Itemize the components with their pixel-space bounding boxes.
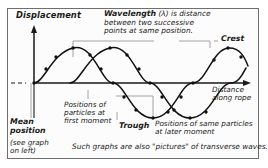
wavelength-line1-rest: (λ) is distance <box>156 9 210 18</box>
mean-position-note: (see graph on left) <box>10 139 49 155</box>
x-axis-label-line2: along rope <box>212 94 251 102</box>
positions-later-line2: at later moment <box>155 128 253 136</box>
crest-label: Crest <box>221 35 244 44</box>
mean-position-label: Mean position <box>10 118 46 135</box>
positions-first-line3: first moment <box>64 117 111 125</box>
figure-caption: Such graphs are also "pictures" of trans… <box>72 143 263 151</box>
y-axis-label: Displacement <box>16 11 81 20</box>
wavelength-bracket-right <box>179 41 210 48</box>
wavelength-term: Wavelength <box>104 9 156 18</box>
positions-later-moment-label: Positions of same particles at later mom… <box>155 120 253 136</box>
positions-first-moment-label: Positions of particles at first moment <box>64 101 111 126</box>
x-axis-label: Distance along rope <box>212 86 251 102</box>
y-axis-arrowhead <box>31 25 37 33</box>
wave-diagram-figure: Displacement Wavelength (λ) is distance … <box>0 0 263 168</box>
trough-label: Trough <box>119 122 149 131</box>
mean-position-line2: position <box>10 127 46 136</box>
wavelength-bracket-left <box>73 41 154 57</box>
mean-position-note-line2: on left) <box>10 147 49 155</box>
wavelength-annotation: Wavelength (λ) is distance between two s… <box>104 10 211 35</box>
wavelength-line3: points at same position. <box>104 27 211 35</box>
